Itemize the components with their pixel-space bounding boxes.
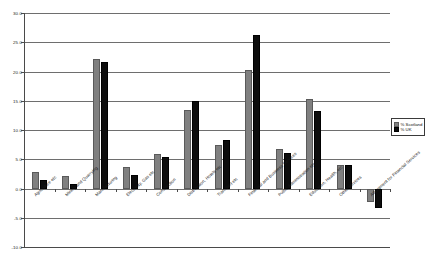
- x-axis-category-label: Financial and Business Services: [247, 151, 297, 197]
- legend-label-uk: % UK: [401, 127, 412, 132]
- chart-container: 30.025.020.015.010.05.00.0-5.0-10.0 Agri…: [0, 0, 443, 266]
- legend-item-scotland: % Scotland: [394, 122, 422, 127]
- legend-label-scotland: % Scotland: [401, 122, 423, 127]
- x-axis-category-label: Agriculture etc: [34, 175, 58, 198]
- x-axis-category-label: Transport etc: [217, 176, 239, 197]
- x-axis-category-label: Other services: [339, 175, 363, 198]
- x-axis-category-label: Electricity, Gas etc: [125, 170, 155, 198]
- legend-swatch-scotland: [394, 122, 399, 127]
- x-axis-category-label: Adjustment for Financial Services: [369, 150, 421, 197]
- x-axis-category-label: Manufacturing: [95, 175, 119, 197]
- legend-item-uk: % UK: [394, 127, 422, 132]
- x-axis-category-label: Construction: [156, 177, 178, 197]
- y-axis-labels: 30.025.020.015.010.05.00.0-5.0-10.0: [0, 13, 22, 247]
- legend-swatch-uk: [394, 127, 399, 132]
- chart-legend: % Scotland % UK: [391, 118, 425, 136]
- x-axis-tick: [390, 189, 391, 192]
- x-axis-labels: Agriculture etcMining and QuarryingManuf…: [24, 13, 390, 266]
